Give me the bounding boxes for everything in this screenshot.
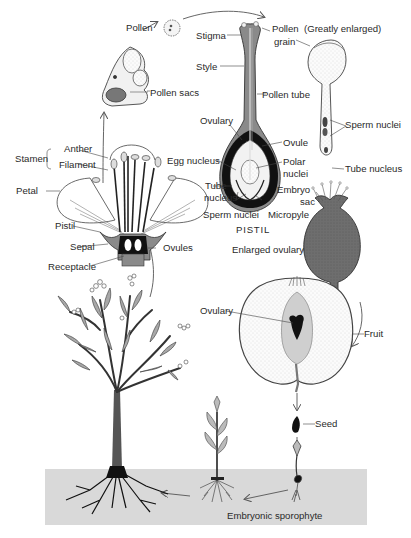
label-pistil: Pistil — [55, 220, 75, 231]
label-polar-nuclei-1: Polar — [283, 156, 305, 167]
label-egg-nucleus: Egg nucleus — [167, 155, 220, 166]
label-embryo-sac-2: sac — [300, 196, 315, 207]
label-enlarged-ovulary: Enlarged ovulary — [232, 244, 304, 255]
label-tube-nucleus-left-2: nucleus — [204, 192, 237, 203]
label-ovulary-fruit: Ovulary — [200, 305, 233, 316]
label-stigma: Stigma — [196, 30, 226, 41]
label-sepal: Sepal — [70, 241, 95, 252]
fruit-cross-section — [239, 276, 352, 392]
label-ovulary-top: Ovulary — [200, 115, 233, 126]
label-sperm-nuclei-left: Sperm nuclei — [203, 209, 259, 220]
label-embryonic-sporophyte: Embryonic sporophyte — [227, 510, 322, 521]
pollen-grain-small — [164, 20, 180, 36]
label-filament: Filament — [59, 159, 96, 170]
label-pollen-grain-1: Pollen — [272, 23, 299, 34]
label-greatly-enlarged: (Greatly enlarged) — [304, 23, 381, 34]
label-micropyle: Micropyle — [268, 209, 309, 220]
label-seed: Seed — [315, 418, 337, 429]
label-stamen: Stamen — [15, 153, 48, 164]
label-pollen-grain-2: grain — [274, 36, 295, 47]
label-receptacle: Receptacle — [48, 261, 96, 272]
seed — [292, 416, 300, 433]
pistil-caption: PISTIL — [236, 224, 270, 235]
label-pollen-sacs: Pollen sacs — [150, 87, 199, 98]
anther-cross-section — [102, 47, 148, 106]
label-sperm-nuclei-right: Sperm nuclei — [345, 119, 401, 130]
label-ovule: Ovule — [283, 137, 308, 148]
label-polar-nuclei-2: nuclei — [283, 168, 308, 179]
label-tube-nucleus-left-1: Tube — [205, 180, 227, 191]
label-fruit: Fruit — [364, 328, 383, 339]
label-pollen: Pollen — [126, 22, 153, 33]
label-embryo-sac-1: Embryo — [277, 184, 310, 195]
label-pollen-tube: Pollen tube — [262, 89, 310, 100]
label-style: Style — [196, 61, 217, 72]
label-anther: Anther — [64, 143, 92, 154]
label-tube-nucleus-right: Tube nucleus — [345, 163, 402, 174]
label-ovules: Ovules — [163, 242, 193, 253]
label-petal: Petal — [16, 185, 38, 196]
pollen-tube-enlarged — [308, 40, 346, 155]
